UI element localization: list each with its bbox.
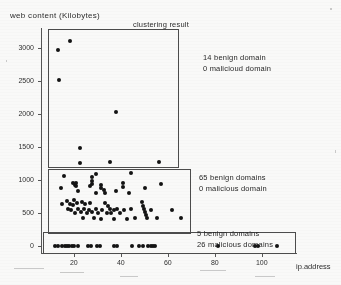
data-point <box>129 171 133 175</box>
data-point <box>88 201 92 205</box>
data-point <box>105 211 109 215</box>
data-point <box>100 208 104 212</box>
scan-speck <box>60 272 84 273</box>
data-point <box>57 78 61 82</box>
annotation-line: 5 benign domains <box>197 228 273 239</box>
y-tick-label: 1500 <box>8 143 34 150</box>
y-tick-label: 0 <box>8 242 34 249</box>
scan-speck <box>330 8 332 10</box>
cluster-annotation-3: 5 benign domains26 malicious domains <box>197 228 273 250</box>
data-point <box>114 110 118 114</box>
data-point <box>92 216 96 220</box>
x-tick-label: 20 <box>62 259 86 266</box>
x-tick-label: 100 <box>250 259 274 266</box>
y-tick-label: 1000 <box>8 176 34 183</box>
x-axis-label: ip address <box>296 262 331 271</box>
x-tick-mark <box>121 254 122 257</box>
data-point <box>94 172 98 176</box>
data-point <box>145 216 149 220</box>
y-tick-label: 2000 <box>8 110 34 117</box>
x-tick-mark <box>215 254 216 257</box>
data-point <box>89 244 93 248</box>
cluster-annotation-1: 14 benign domain0 malicioud domain <box>203 52 271 74</box>
annotation-line: 0 malicious domain <box>199 183 267 194</box>
scan-speck <box>335 150 336 153</box>
scan-speck <box>14 268 44 269</box>
cluster-annotation-2: 65 benign domains0 malicious domain <box>199 172 267 194</box>
data-point <box>99 217 103 221</box>
data-point <box>78 161 82 165</box>
data-point <box>88 184 92 188</box>
data-point <box>118 211 122 215</box>
y-tick-label: 500 <box>8 209 34 216</box>
y-tick-label: 3000 <box>8 44 34 51</box>
data-point <box>81 216 85 220</box>
data-point <box>59 186 63 190</box>
data-point <box>73 211 77 215</box>
annotation-line: 65 benign domains <box>199 172 267 183</box>
annotation-line: 0 malicioud domain <box>203 63 271 74</box>
x-tick-mark <box>262 254 263 257</box>
scan-speck <box>300 268 316 269</box>
data-point <box>125 217 129 221</box>
data-point <box>112 217 116 221</box>
scan-speck <box>6 60 7 62</box>
y-axis-label: web content (Kilobytes) <box>10 11 100 20</box>
data-point <box>115 244 119 248</box>
data-point <box>159 182 163 186</box>
scan-speck <box>120 276 138 277</box>
y-tick-label: 2500 <box>8 77 34 84</box>
x-tick-label: 60 <box>156 259 180 266</box>
x-tick-mark <box>168 254 169 257</box>
data-point <box>143 186 147 190</box>
scan-speck <box>255 276 275 277</box>
annotation-line: 14 benign domain <box>203 52 271 63</box>
scan-speck <box>200 270 226 271</box>
data-point <box>275 244 279 248</box>
annotation-line: 26 malicious domains <box>197 239 273 250</box>
data-point <box>155 216 159 220</box>
x-tick-label: 80 <box>203 259 227 266</box>
x-tick-label: 40 <box>109 259 133 266</box>
data-point <box>60 202 64 206</box>
data-point <box>179 216 183 220</box>
data-point <box>78 146 82 150</box>
cluster-box-1 <box>48 29 180 168</box>
scatter-plot-figure: web content (Kilobytes) clustering resul… <box>0 0 341 285</box>
data-point <box>71 203 75 207</box>
x-tick-mark <box>74 254 75 257</box>
data-point <box>133 216 137 220</box>
